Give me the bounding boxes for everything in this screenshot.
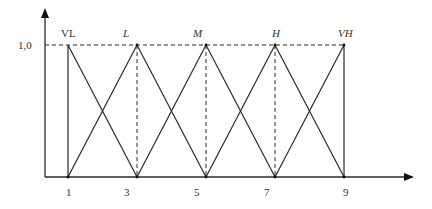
set-label-vl: VL: [61, 27, 76, 39]
y-axis-arrow-icon: [41, 8, 49, 18]
axes: [45, 16, 405, 177]
membership-function-diagram: 1,0 1 3 5 7 9 VL L M H VH: [0, 0, 432, 209]
x-tick-label-1: 1: [66, 186, 72, 198]
x-tick-label-9: 9: [343, 186, 349, 198]
x-axis-arrow-icon: [404, 173, 414, 181]
x-tick-label-5: 5: [194, 186, 200, 198]
set-label-l: L: [122, 27, 129, 39]
set-label-vh: VH: [338, 27, 354, 39]
x-tick-label-3: 3: [124, 186, 130, 198]
set-label-h: H: [271, 27, 281, 39]
x-tick-label-7: 7: [264, 186, 270, 198]
y-axis-label-1-0: 1,0: [18, 39, 32, 51]
peak-dashed-lines: [137, 45, 275, 177]
set-label-m: M: [192, 27, 203, 39]
